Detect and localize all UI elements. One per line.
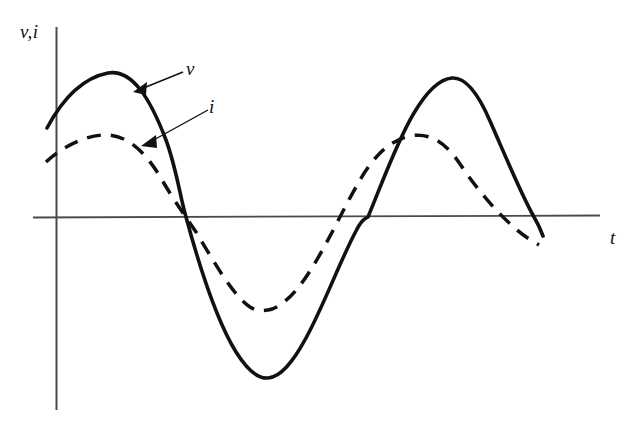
current-curve-label: i — [209, 97, 214, 116]
x-axis-line — [33, 216, 600, 218]
voltage-callout-arrow — [133, 72, 183, 95]
y-axis-label: v,i — [20, 22, 39, 41]
waveform-figure: v,i t v i — [0, 0, 638, 427]
current-callout-arrow — [141, 110, 208, 148]
current-curve — [46, 135, 539, 311]
plot-canvas — [0, 0, 638, 427]
voltage-curve — [47, 73, 543, 378]
x-axis-label: t — [610, 228, 615, 247]
voltage-curve-label: v — [186, 59, 194, 78]
